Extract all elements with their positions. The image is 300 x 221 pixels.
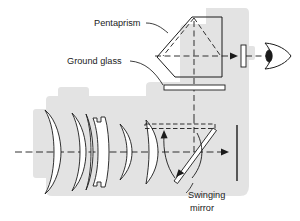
leader-pentaprism [146,23,168,33]
diagram-canvas: Pentaprism Ground glass Swinging mirror [0,0,300,221]
ground-glass [164,85,225,90]
label-swinging-mirror-line1: Swinging [188,190,225,200]
eyepiece-lens [241,45,246,67]
leader-ground-glass [130,61,163,85]
label-ground-glass: Ground glass [67,56,122,66]
camera-eyepiece-nub [246,46,255,60]
slr-camera-diagram: Pentaprism Ground glass Swinging mirror [0,0,300,221]
eye-pupil [266,50,272,62]
label-pentaprism: Pentaprism [94,18,141,28]
camera-body-shape [33,8,249,196]
eyepiece [241,45,246,67]
ground-glass-plate [164,85,225,90]
camera-prism-hump [206,8,233,24]
eye-icon [265,43,291,69]
label-swinging-mirror-line2: mirror [190,203,214,213]
